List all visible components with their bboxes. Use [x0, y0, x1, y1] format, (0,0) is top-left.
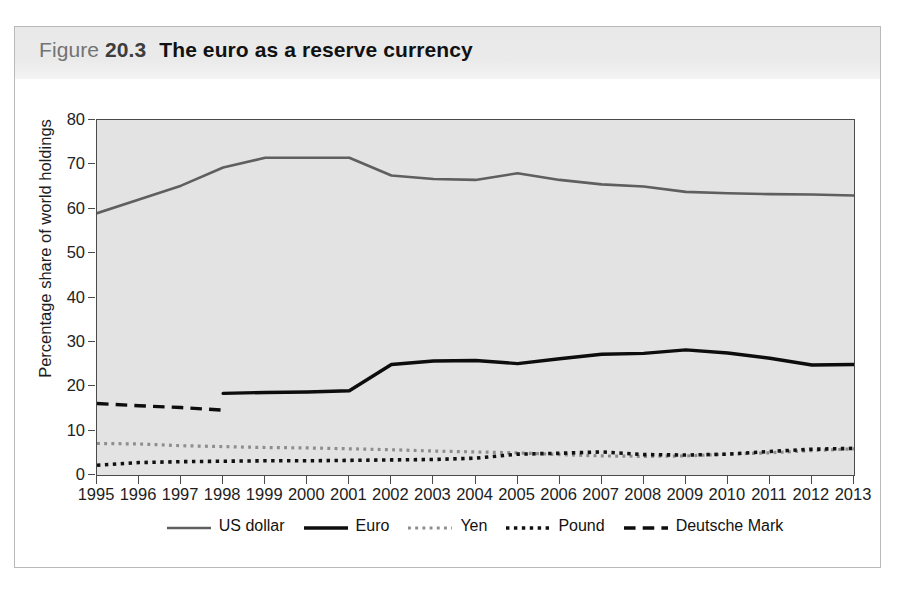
x-tick-label: 2001 [330, 485, 367, 503]
x-tick-label: 2002 [372, 485, 409, 503]
chart-area: Percentage share of world holdings 01020… [15, 79, 882, 568]
legend-label: Yen [460, 517, 487, 535]
x-axis-tick-labels: 1995199619971998199920002001200220032004… [96, 485, 856, 509]
legend-item-pound[interactable]: Pound [505, 517, 604, 535]
x-tick-label: 2012 [793, 485, 830, 503]
x-tick-mark [769, 475, 770, 484]
legend-label: Euro [356, 517, 390, 535]
x-tick-label: 1995 [78, 485, 115, 503]
legend-item-deutsche-mark[interactable]: Deutsche Mark [623, 517, 784, 535]
x-tick-label: 2013 [835, 485, 872, 503]
y-tick-mark [88, 474, 95, 475]
x-tick-mark [811, 475, 812, 484]
x-tick-label: 1996 [120, 485, 157, 503]
legend-item-euro[interactable]: Euro [303, 517, 390, 535]
legend-swatch-icon [407, 520, 453, 532]
series-line-euro [223, 350, 854, 393]
x-tick-label: 2007 [582, 485, 619, 503]
figure-frame: Figure 20.3 The euro as a reserve curren… [14, 26, 881, 568]
x-tick-mark [264, 475, 265, 484]
x-tick-mark [96, 475, 97, 484]
x-tick-label: 2008 [624, 485, 661, 503]
x-tick-mark [348, 475, 349, 484]
x-tick-mark [517, 475, 518, 484]
x-tick-mark [601, 475, 602, 484]
y-tick-mark [88, 385, 95, 386]
plot-area [96, 119, 855, 476]
x-tick-mark [432, 475, 433, 484]
x-tick-label: 1997 [162, 485, 199, 503]
figure-title-band: Figure 20.3 The euro as a reserve curren… [15, 27, 880, 79]
legend-swatch-icon [303, 520, 349, 532]
x-tick-mark [685, 475, 686, 484]
x-tick-label: 2005 [498, 485, 535, 503]
figure-label: Figure [39, 38, 99, 61]
series-line-deutsche-mark [97, 404, 223, 411]
y-tick-mark [88, 341, 95, 342]
legend-label: Pound [558, 517, 604, 535]
x-tick-label: 2006 [540, 485, 577, 503]
x-tick-label: 1998 [204, 485, 241, 503]
x-tick-mark [390, 475, 391, 484]
x-tick-mark [222, 475, 223, 484]
chart-series-svg [97, 120, 854, 475]
legend-item-yen[interactable]: Yen [407, 517, 487, 535]
legend-label: Deutsche Mark [676, 517, 784, 535]
y-tick-mark [88, 430, 95, 431]
x-tick-label: 2009 [666, 485, 703, 503]
x-tick-mark [138, 475, 139, 484]
x-tick-label: 2010 [708, 485, 745, 503]
x-tick-mark [853, 475, 854, 484]
y-tick-mark [88, 119, 95, 120]
figure-name: The euro as a reserve currency [159, 38, 473, 61]
legend-item-us-dollar[interactable]: US dollar [166, 517, 285, 535]
x-tick-label: 2004 [456, 485, 493, 503]
x-tick-label: 2011 [751, 485, 786, 503]
figure-title: Figure 20.3 The euro as a reserve curren… [39, 38, 473, 62]
legend-label: US dollar [219, 517, 285, 535]
x-tick-mark [306, 475, 307, 484]
x-tick-label: 2000 [288, 485, 325, 503]
x-tick-mark [559, 475, 560, 484]
y-tick-mark [88, 297, 95, 298]
x-tick-mark [727, 475, 728, 484]
y-tick-mark [88, 163, 95, 164]
chart-legend: US dollarEuroYenPoundDeutsche Mark [96, 517, 853, 535]
series-line-us-dollar [97, 158, 854, 213]
series-line-pound [97, 448, 854, 465]
y-axis-tick-marks [47, 119, 97, 475]
x-tick-label: 1999 [246, 485, 283, 503]
x-tick-mark [475, 475, 476, 484]
x-tick-mark [643, 475, 644, 484]
x-tick-mark [180, 475, 181, 484]
legend-swatch-icon [505, 520, 551, 532]
y-tick-mark [88, 252, 95, 253]
figure-number: 20.3 [105, 38, 146, 61]
y-tick-mark [88, 208, 95, 209]
legend-swatch-icon [166, 520, 212, 532]
legend-swatch-icon [623, 520, 669, 532]
x-tick-label: 2003 [414, 485, 451, 503]
